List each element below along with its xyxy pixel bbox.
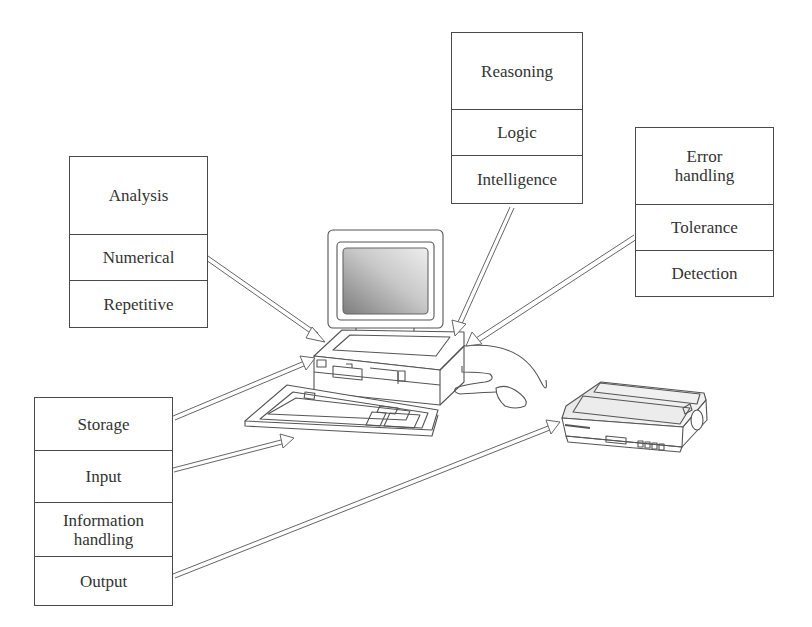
error-handling-box: Error handling Tolerance Detection [635,127,774,297]
error-item-detection: Detection [636,250,773,296]
io-item-input: Input [35,450,172,502]
error-header-line-1: Error [687,147,723,166]
error-item-tolerance: Tolerance [636,204,773,250]
reasoning-item-intelligence: Intelligence [452,155,582,203]
reasoning-box: Reasoning Logic Intelligence [451,32,583,204]
arrow-output [173,420,560,578]
info-line-1: Information [63,511,144,530]
analysis-header: Analysis [70,157,207,234]
io-item-output: Output [35,556,172,605]
arrow-error [466,235,637,346]
monitor-icon [328,230,443,346]
io-item-information-handling: Information handling [35,502,172,556]
arrow-input [173,434,294,472]
reasoning-header: Reasoning [452,33,582,109]
arrow-analysis [206,256,325,342]
reasoning-item-logic: Logic [452,109,582,155]
analysis-box: Analysis Numerical Repetitive [69,156,208,328]
error-handling-header: Error handling [636,128,773,204]
info-line-2: handling [74,530,134,549]
io-box: Storage Input Information handling Outpu… [34,397,173,606]
analysis-item-repetitive: Repetitive [70,280,207,327]
analysis-item-numerical: Numerical [70,234,207,280]
arrow-reasoning [452,207,514,336]
printer-icon [562,382,707,452]
mouse-icon [455,345,547,408]
io-item-storage: Storage [35,398,172,450]
error-header-line-2: handling [675,166,735,185]
